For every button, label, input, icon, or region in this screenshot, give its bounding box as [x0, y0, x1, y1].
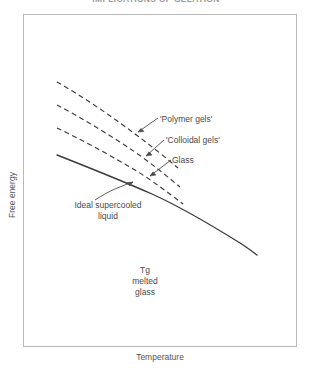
- annotation-ideal-supercooled-liquid: Ideal supercooled liquid: [55, 200, 161, 222]
- annotation-glass: Glass: [172, 155, 194, 166]
- y-axis-label: Free energy: [7, 160, 17, 230]
- x-axis-label: Temperature: [23, 352, 297, 362]
- annotation-tg-melted-glass: Tg melted glass: [108, 265, 182, 298]
- annotation-colloidal-gels: 'Colloidal gels': [166, 135, 220, 146]
- annotation-ideal-line-1: Ideal supercooled: [74, 200, 141, 210]
- annotation-melted-line-1: melted: [132, 276, 158, 286]
- annotation-tg-label: Tg: [140, 265, 150, 275]
- figure-top-caption: IMPLICATIONS OF GELATION: [0, 0, 312, 3]
- figure-container: IMPLICATIONS OF GELATION Free energy Tem…: [0, 0, 312, 371]
- annotation-ideal-line-2: liquid: [98, 211, 118, 221]
- annotation-polymer-gels: 'Polymer gels': [160, 114, 212, 125]
- annotation-melted-line-2: glass: [135, 287, 155, 297]
